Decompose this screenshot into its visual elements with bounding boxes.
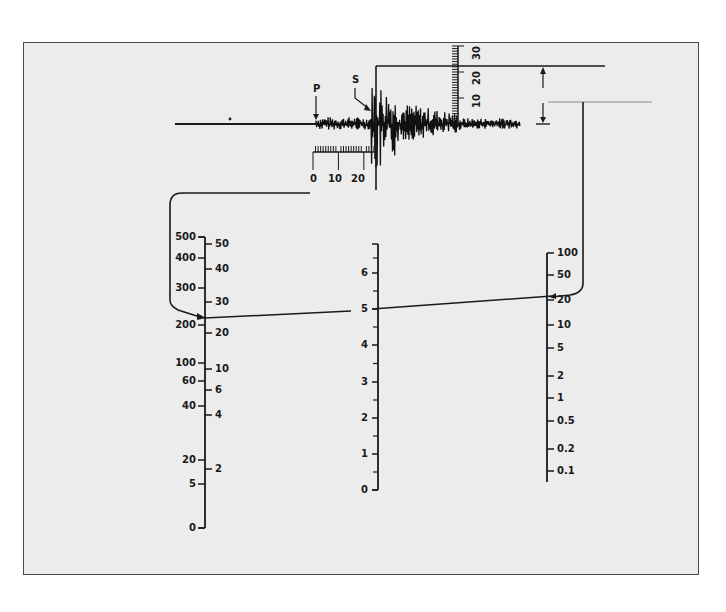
amplitude-scale (452, 46, 464, 124)
distance-axis (198, 237, 212, 528)
s-p-tick-label: 4 (215, 410, 222, 420)
distance-tick-label: 60 (156, 376, 196, 386)
magnitude-axis (372, 244, 378, 490)
magnitude-tick-label: 6 (328, 268, 368, 278)
s-p-tick-label: 10 (215, 364, 229, 374)
s-p-tick-label: 20 (215, 328, 229, 338)
amp-label-20: 20 (472, 71, 482, 85)
distance-tick-label: 300 (156, 283, 196, 293)
amp-label-10: 10 (472, 94, 482, 108)
distance-tick-label: 40 (156, 401, 196, 411)
magnitude-tick-label: 1 (328, 449, 368, 459)
s-p-tick-label: 50 (215, 239, 229, 249)
distance-tick-label: 400 (156, 253, 196, 263)
distance-tick-label: 5 (156, 479, 196, 489)
distance-tick-label: 20 (156, 455, 196, 465)
amplitude-tick-label: 20 (557, 295, 571, 305)
amp-label-30: 30 (472, 46, 482, 60)
time-label-10: 10 (328, 174, 342, 184)
amplitude-tick-label: 1 (557, 393, 564, 403)
magnitude-tick-label: 5 (328, 304, 368, 314)
time-label-0: 0 (310, 174, 317, 184)
distance-tick-label: 500 (156, 232, 196, 242)
distance-tick-label: 200 (156, 320, 196, 330)
s-p-tick-label: 40 (215, 264, 229, 274)
s-p-tick-label: 2 (215, 464, 222, 474)
amplitude-tick-label: 0.5 (557, 416, 575, 426)
distance-tick-label: 100 (156, 358, 196, 368)
amplitude-tick-label: 10 (557, 320, 571, 330)
magnitude-line-right (372, 296, 552, 309)
s-p-tick-label: 6 (215, 385, 222, 395)
amplitude-connector (552, 102, 583, 297)
distance-tick-label: 0 (156, 523, 196, 533)
amplitude-tick-label: 50 (557, 270, 571, 280)
amplitude-tick-label: 100 (557, 248, 578, 258)
magnitude-tick-label: 3 (328, 377, 368, 387)
s-label: S (352, 75, 359, 85)
amplitude-tick-label: 0.2 (557, 444, 575, 454)
s-p-tick-label: 30 (215, 297, 229, 307)
amplitude-axis (547, 253, 554, 482)
seismogram-trace (316, 88, 520, 167)
amplitude-tick-label: 0.1 (557, 466, 575, 476)
amplitude-tick-label: 5 (557, 343, 564, 353)
amplitude-tick-label: 2 (557, 371, 564, 381)
magnitude-tick-label: 0 (328, 485, 368, 495)
time-scale (313, 146, 374, 170)
p-label: P (313, 84, 320, 94)
magnitude-tick-label: 4 (328, 340, 368, 350)
magnitude-tick-label: 2 (328, 413, 368, 423)
time-label-20: 20 (351, 174, 365, 184)
